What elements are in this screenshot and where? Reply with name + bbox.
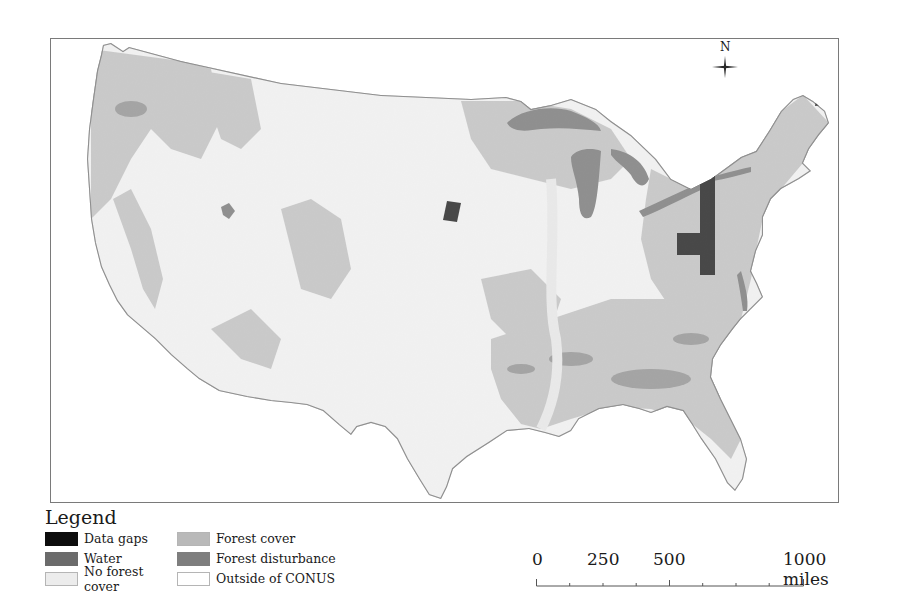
map-frame [50, 38, 839, 503]
legend-item-no-forest-cover: No forest cover [45, 570, 177, 587]
data-gaps-swatch [45, 532, 78, 546]
forest-cover-swatch [177, 532, 210, 546]
legend: Legend Data gaps Forest cover Water Fore… [45, 506, 357, 587]
legend-label: Data gaps [84, 531, 148, 546]
scale-label-500: 500 [653, 549, 685, 569]
legend-label: Forest disturbance [216, 551, 336, 566]
land-cover-layer [51, 39, 840, 504]
legend-title: Legend [45, 506, 357, 528]
compass-rose-icon [708, 40, 742, 86]
legend-item-outside-conus: Outside of CONUS [177, 570, 357, 587]
legend-label: Forest cover [216, 531, 295, 546]
scale-label-250: 250 [587, 549, 619, 569]
no-forest-cover-swatch [45, 572, 78, 586]
scale-bar: 0 250 500 1000 miles [530, 549, 870, 589]
legend-item-data-gaps: Data gaps [45, 530, 177, 547]
north-arrow: N [708, 40, 742, 86]
scale-ruler [536, 579, 804, 587]
conus-map [51, 39, 840, 504]
legend-item-forest-cover: Forest cover [177, 530, 357, 547]
forest-disturbance-swatch [177, 552, 210, 566]
scale-label-0: 0 [532, 549, 543, 569]
water-swatch [45, 552, 78, 566]
legend-label: No forest cover [84, 564, 177, 594]
legend-items: Data gaps Forest cover Water Forest dist… [45, 530, 357, 587]
outside-conus-swatch [177, 572, 210, 586]
legend-label: Outside of CONUS [216, 571, 335, 586]
legend-item-forest-disturbance: Forest disturbance [177, 550, 357, 567]
